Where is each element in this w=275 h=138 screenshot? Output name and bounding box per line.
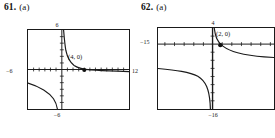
problem-62-part: (a) [156, 2, 166, 12]
graph-62-xmin-label: −15 [140, 39, 149, 45]
graph-61-ymax-label: 6 [56, 22, 59, 28]
graph-62-intercept-dot [218, 43, 222, 47]
problem-61-number: 61. [4, 2, 16, 12]
graph-62-ymax-label: 4 [212, 20, 215, 26]
graph-61-plot-frame [27, 29, 130, 110]
graph-61-xmin-label: −6 [6, 68, 12, 74]
graph-62-canvas [158, 28, 274, 109]
graph-61-point-label: (4, 0) [68, 54, 82, 61]
problem-62-heading: 62.(a) [141, 2, 166, 12]
graph-61-canvas [28, 30, 129, 109]
graph-62-plot-frame [157, 27, 275, 110]
textbook-figure-sheet: 61.(a) [0, 0, 275, 138]
graph-61-intercept-dot [82, 68, 86, 72]
graph-62-point-label: (2, 0) [216, 31, 230, 38]
graph-62-ymin-label: −16 [208, 112, 217, 118]
problem-61-heading: 61.(a) [4, 2, 29, 12]
graph-62-left-branch [158, 69, 210, 110]
problem-62: 62.(a) [138, 0, 275, 138]
problem-61: 61.(a) [0, 0, 138, 138]
problem-61-part: (a) [19, 2, 29, 12]
graph-61-left-branch [28, 83, 57, 109]
graph-61-right-branch [64, 30, 129, 72]
graph-61-ymin-label: −6 [54, 112, 60, 118]
problem-62-number: 62. [141, 2, 153, 12]
